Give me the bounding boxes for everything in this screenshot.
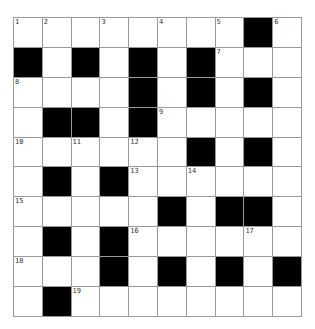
grid-cell[interactable]	[157, 226, 186, 256]
grid-cell[interactable]	[13, 226, 42, 256]
grid-cell[interactable]	[272, 196, 301, 226]
grid-cell[interactable]	[186, 226, 215, 256]
grid-cell[interactable]: 19	[71, 286, 100, 316]
clue-number: 13	[130, 167, 138, 176]
grid-cell[interactable]	[99, 47, 128, 77]
grid-cell[interactable]	[71, 166, 100, 196]
black-cell	[42, 166, 71, 196]
grid-cell[interactable]: 1	[13, 17, 42, 47]
black-cell	[128, 107, 157, 137]
grid-cell[interactable]: 4	[157, 17, 186, 47]
grid-cell[interactable]	[71, 17, 100, 47]
clue-number: 18	[15, 257, 23, 266]
grid-cell[interactable]	[157, 166, 186, 196]
grid-cell[interactable]: 7	[215, 47, 244, 77]
clue-number: 2	[44, 18, 48, 27]
grid-cell[interactable]	[128, 256, 157, 286]
clue-number: 3	[101, 18, 105, 27]
clue-number: 8	[15, 78, 19, 87]
grid-cell[interactable]	[128, 196, 157, 226]
grid-cell[interactable]: 18	[13, 256, 42, 286]
grid-cell[interactable]	[42, 77, 71, 107]
black-cell	[99, 256, 128, 286]
grid-cell[interactable]	[186, 256, 215, 286]
grid-cell[interactable]	[243, 256, 272, 286]
grid-cell[interactable]	[215, 107, 244, 137]
grid-cell[interactable]	[272, 77, 301, 107]
grid-cell[interactable]	[42, 256, 71, 286]
grid-cell[interactable]	[99, 196, 128, 226]
grid-cell[interactable]	[71, 226, 100, 256]
grid-cell[interactable]: 3	[99, 17, 128, 47]
black-cell	[99, 166, 128, 196]
black-cell	[128, 47, 157, 77]
grid-cell[interactable]	[186, 286, 215, 316]
clue-number: 14	[188, 167, 196, 176]
grid-cell[interactable]: 12	[128, 137, 157, 167]
grid-cell[interactable]	[99, 286, 128, 316]
grid-cell[interactable]	[243, 166, 272, 196]
grid-cell[interactable]	[272, 137, 301, 167]
grid-cell[interactable]: 17	[243, 226, 272, 256]
grid-cell[interactable]: 13	[128, 166, 157, 196]
grid-cell[interactable]	[42, 137, 71, 167]
grid-cell[interactable]	[215, 137, 244, 167]
grid-cell[interactable]	[128, 286, 157, 316]
grid-cell[interactable]: 14	[186, 166, 215, 196]
grid-cell[interactable]	[42, 196, 71, 226]
grid-cell[interactable]	[243, 107, 272, 137]
grid-cell[interactable]	[157, 47, 186, 77]
clue-number: 15	[15, 197, 23, 206]
black-cell	[186, 77, 215, 107]
grid-cell[interactable]	[71, 196, 100, 226]
black-cell	[71, 107, 100, 137]
grid-cell[interactable]: 10	[13, 137, 42, 167]
grid-cell[interactable]: 16	[128, 226, 157, 256]
grid-cell[interactable]	[215, 166, 244, 196]
grid-cell[interactable]	[71, 256, 100, 286]
grid-cell[interactable]	[186, 196, 215, 226]
clue-number: 19	[73, 287, 81, 296]
grid-cell[interactable]	[272, 107, 301, 137]
grid-cell[interactable]	[13, 166, 42, 196]
grid-cell[interactable]: 2	[42, 17, 71, 47]
grid-cell[interactable]	[42, 47, 71, 77]
black-cell	[243, 17, 272, 47]
grid-cell[interactable]: 6	[272, 17, 301, 47]
grid-cell[interactable]	[272, 226, 301, 256]
grid-cell[interactable]	[99, 137, 128, 167]
grid-cell[interactable]: 5	[215, 17, 244, 47]
grid-cell[interactable]: 9	[157, 107, 186, 137]
black-cell	[215, 256, 244, 286]
grid-cell[interactable]: 8	[13, 77, 42, 107]
grid-cell[interactable]	[215, 286, 244, 316]
grid-cell[interactable]	[71, 77, 100, 107]
black-cell	[42, 286, 71, 316]
grid-cell[interactable]	[157, 286, 186, 316]
grid-cell[interactable]	[272, 166, 301, 196]
black-cell	[99, 226, 128, 256]
black-cell	[186, 47, 215, 77]
grid-cell[interactable]	[243, 47, 272, 77]
black-cell	[42, 226, 71, 256]
grid-cell[interactable]	[99, 107, 128, 137]
grid-cell[interactable]	[186, 17, 215, 47]
grid-cell[interactable]: 15	[13, 196, 42, 226]
clue-number: 6	[274, 18, 278, 27]
clue-number: 12	[130, 138, 138, 147]
clue-number: 4	[159, 18, 163, 27]
grid-cell[interactable]	[13, 107, 42, 137]
grid-cell[interactable]	[186, 107, 215, 137]
grid-cell[interactable]	[272, 286, 301, 316]
grid-cell[interactable]	[157, 77, 186, 107]
grid-cell[interactable]	[13, 286, 42, 316]
grid-cell[interactable]	[272, 47, 301, 77]
black-cell	[42, 107, 71, 137]
grid-cell[interactable]	[215, 226, 244, 256]
grid-cell[interactable]: 11	[71, 137, 100, 167]
grid-cell[interactable]	[128, 17, 157, 47]
grid-cell[interactable]	[99, 77, 128, 107]
grid-cell[interactable]	[215, 77, 244, 107]
grid-cell[interactable]	[157, 137, 186, 167]
grid-cell[interactable]	[243, 286, 272, 316]
